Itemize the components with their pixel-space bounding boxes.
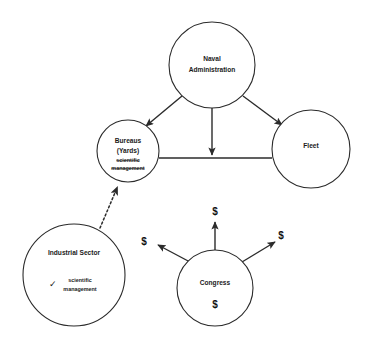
edge-naval-to-fleet	[243, 96, 282, 125]
congress-label: Congress	[200, 279, 231, 287]
congress-circle	[177, 250, 253, 326]
money-label-left: $	[141, 236, 147, 247]
industrial-sector-sublabel-line2: management	[63, 286, 96, 292]
checkmark-icon: ✓	[49, 279, 57, 289]
naval-administration-label-line2: Administration	[189, 66, 236, 73]
money-label-right: $	[278, 230, 284, 241]
fleet-label: Fleet	[303, 142, 319, 149]
node-congress[interactable]: Congress $	[177, 250, 253, 326]
fleet-circle	[272, 110, 350, 188]
naval-administration-label-line1: Naval	[203, 55, 221, 62]
industrial-sector-circle	[23, 224, 125, 326]
edge-naval-to-bureaus	[146, 96, 182, 126]
bureaus-sublabel-line2: management	[111, 165, 144, 171]
diagram-canvas: Naval Administration Bureaus (Yards) sci…	[0, 0, 370, 357]
node-industrial-sector[interactable]: Industrial Sector ✓ scientific managemen…	[23, 224, 125, 326]
bureaus-label-line2: (Yards)	[117, 147, 139, 155]
bureaus-label-line1: Bureaus	[115, 137, 142, 144]
edge-congress-to-right	[242, 242, 275, 262]
bureaus-sublabel-line1: scientific	[116, 157, 139, 163]
congress-money-symbol: $	[212, 299, 218, 310]
node-bureaus[interactable]: Bureaus (Yards) scientific management	[97, 120, 159, 182]
diagram-svg: Naval Administration Bureaus (Yards) sci…	[0, 0, 370, 357]
node-naval-administration[interactable]: Naval Administration	[169, 22, 255, 108]
edge-industrial-to-bureaus	[100, 188, 117, 228]
industrial-sector-sublabel-line1: scientific	[68, 277, 91, 283]
edge-congress-to-left	[158, 245, 190, 262]
industrial-sector-label: Industrial Sector	[48, 249, 100, 256]
node-fleet[interactable]: Fleet	[272, 110, 350, 188]
money-label-top: $	[212, 206, 218, 217]
